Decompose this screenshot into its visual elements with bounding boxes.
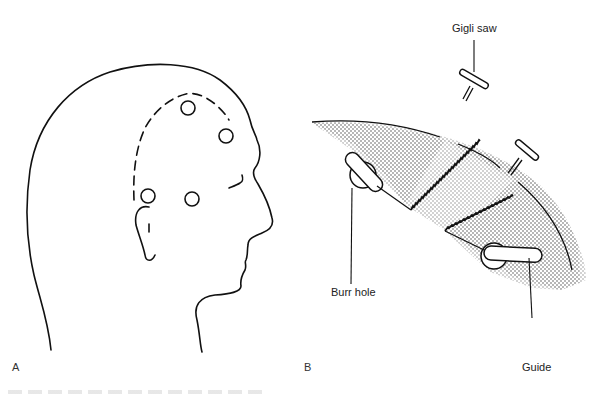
- eye: [229, 175, 243, 188]
- label-gigli-saw: Gigli saw: [452, 22, 497, 34]
- truncated-caption: [8, 390, 268, 394]
- panel-letter-b: B: [304, 361, 311, 373]
- panel-a-head-drawing: [27, 64, 273, 352]
- burr-hole-1: [181, 101, 195, 115]
- gigli-saw-handle-2-bar: [514, 139, 539, 162]
- panel-letter-a: A: [12, 361, 19, 373]
- leader-burr-hole: [351, 188, 352, 284]
- gigli-saw-handle-1-stem: [463, 86, 473, 101]
- figure-canvas: [0, 0, 590, 396]
- burr-hole-2: [219, 129, 233, 143]
- label-burr-hole: Burr hole: [331, 286, 376, 298]
- burr-hole-3: [141, 189, 155, 203]
- ear: [136, 207, 155, 261]
- panel-b-saw-drawing: [312, 40, 586, 318]
- head-outline: [27, 64, 273, 352]
- label-guide: Guide: [522, 361, 551, 373]
- burr-hole-4: [185, 192, 199, 206]
